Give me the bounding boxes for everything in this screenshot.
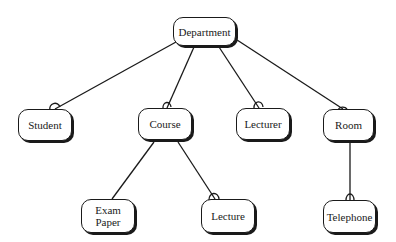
edge-department-course [167,47,194,108]
node-course: Course [138,108,192,140]
node-label: Department [179,26,231,38]
node-room: Room [323,109,374,141]
node-lecturer: Lecturer [236,108,290,140]
edge-course-exampaper [112,142,154,199]
node-department: Department [173,17,236,46]
edge-department-student [55,42,176,109]
hierarchy-diagram: Department Student Course Lecturer Room … [0,0,396,242]
node-label: Room [335,119,362,131]
node-label: Student [28,119,62,131]
node-label: Telephone [327,211,373,223]
node-label-line1: Exam [95,204,121,216]
edge-course-lecture [178,142,215,199]
edge-department-lecturer [219,47,259,108]
node-student: Student [18,109,72,141]
node-label-line2: Paper [95,216,121,228]
node-exam-paper: Exam Paper [81,199,135,233]
node-lecture: Lecture [201,199,255,233]
node-label: Lecturer [244,118,281,130]
node-telephone: Telephone [323,200,376,233]
node-label: Lecture [211,210,245,222]
node-label-multiline: Exam Paper [95,204,121,228]
node-label: Course [149,118,180,130]
edge-department-room [234,38,343,109]
